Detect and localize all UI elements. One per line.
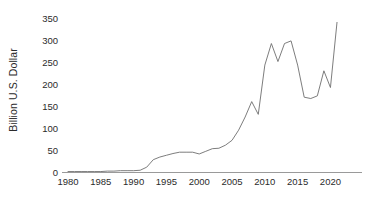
y-tick-label: 150 [42,101,58,112]
y-axis-title-wrap: Billion U.S. Dollar [0,0,26,180]
chart-container: Billion U.S. Dollar 05010015020025030035… [0,0,370,203]
x-axis-tick-labels: 198019851990199520002005201020152020 [0,176,370,196]
x-tick-label: 2015 [287,176,308,187]
y-tick-label: 200 [42,79,58,90]
y-tick-label: 50 [47,145,58,156]
y-axis-title: Billion U.S. Dollar [7,48,19,132]
data-series-line [68,22,337,171]
x-tick-label: 1980 [57,176,78,187]
x-tick-label: 2000 [189,176,210,187]
x-tick-label: 1990 [123,176,144,187]
x-axis-line [62,172,362,173]
x-tick-label: 1985 [90,176,111,187]
plot-area [62,8,362,178]
x-tick-label: 1995 [156,176,177,187]
y-axis-tick-labels: 050100150200250300350 [26,0,62,203]
y-tick-label: 100 [42,123,58,134]
y-tick-label: 250 [42,57,58,68]
x-tick-label: 2020 [320,176,341,187]
y-tick-label: 350 [42,13,58,24]
x-tick-label: 2010 [254,176,275,187]
line-chart-svg [62,8,362,178]
x-tick-label: 2005 [221,176,242,187]
y-tick-label: 300 [42,35,58,46]
